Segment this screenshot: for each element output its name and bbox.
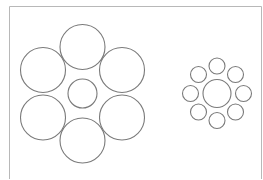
surround-circle <box>191 67 207 83</box>
surround-circle <box>183 86 199 102</box>
surround-circle <box>228 67 244 83</box>
surround-circle <box>191 104 207 120</box>
surround-circle <box>60 118 105 163</box>
large-surround-group <box>21 25 145 164</box>
surround-circle <box>100 95 145 140</box>
surround-circle <box>21 48 66 93</box>
frame <box>10 7 262 180</box>
surround-circle <box>228 104 244 120</box>
center-circle <box>68 79 97 108</box>
surround-circle <box>236 86 252 102</box>
surround-circle <box>60 25 105 70</box>
surround-circle <box>209 58 225 74</box>
small-surround-group <box>183 58 252 129</box>
surround-circle <box>209 113 225 129</box>
surround-circle <box>21 95 66 140</box>
center-circle <box>203 80 231 108</box>
surround-circle <box>100 48 145 93</box>
ebbinghaus-diagram <box>0 0 263 179</box>
